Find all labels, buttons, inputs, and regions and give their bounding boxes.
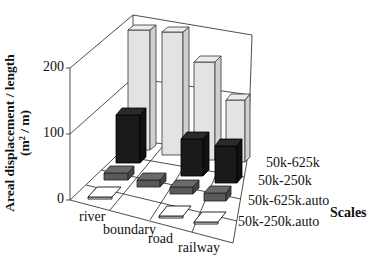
bar-railway-50k-625k-auto	[204, 186, 231, 201]
category-label-railway: railway	[178, 240, 220, 256]
bar-road-50k-625k-auto	[170, 180, 199, 194]
series-label-50k-250k: 50k-250k	[258, 173, 312, 189]
y-tick-0: 0	[34, 191, 64, 207]
y-axis-title: Areal displacement / length (m² / m)	[2, 48, 32, 218]
bar-road-50k-250k	[181, 132, 209, 176]
bar-railway-50k-250k	[215, 139, 242, 183]
bar-river-50k-625k-auto	[104, 166, 134, 180]
category-label-river: river	[79, 209, 105, 225]
depth-axis-title: Scales	[330, 205, 367, 221]
bar-road-50k-250k-auto	[159, 206, 191, 218]
bar-railway-50k-250k-auto	[194, 212, 226, 224]
series-label-50k-625k-auto: 50k-625k.auto	[248, 193, 329, 209]
category-label-road: road	[148, 231, 173, 247]
y-axis-title-line1: Areal displacement / length	[2, 48, 17, 218]
bar-boundary-50k-625k-auto	[137, 173, 166, 187]
y-tick-200: 200	[34, 59, 64, 75]
series-label-50k-250k-auto: 50k-250k.auto	[238, 214, 319, 230]
y-tick-100: 100	[34, 125, 64, 141]
series-label-50k-625k: 50k-625k	[266, 155, 320, 171]
y-axis	[66, 68, 70, 200]
bar-river-50k-250k-auto	[88, 187, 121, 199]
y-axis-title-units: (m² / m)	[17, 48, 32, 218]
bar-river-50k-250k	[116, 108, 146, 163]
